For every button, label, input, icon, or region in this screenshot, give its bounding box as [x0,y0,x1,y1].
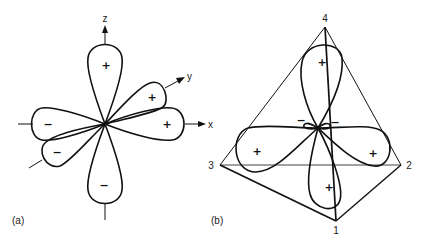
x-axis-label: x [208,119,213,130]
y-axis-label: y [187,71,192,82]
sign-b-left: + [252,145,261,158]
lobe-positive-y [105,82,166,124]
orbital-diagram: + − + + − − z y x (a) + + + + − − [0,0,431,244]
y-axis-arrowhead-icon [176,77,185,84]
z-axis-label: z [103,13,108,24]
lobe-b-right [318,127,390,166]
sign-b-small-left: − [296,114,305,127]
sign-positive-x: + [162,118,171,131]
sign-b-lower: + [324,181,333,194]
neg-y-axis-stub [29,160,42,168]
sign-positive-y: + [147,91,156,104]
sign-b-upper: + [317,56,326,69]
edge-2-1 [336,165,401,221]
panel-b: + + + + − − 4 3 2 1 (b) [208,13,412,236]
sign-negative-y: − [52,146,61,159]
sign-b-right: + [368,147,377,160]
sign-lower-z: − [99,179,108,192]
panel-a: + − + + − − z y x (a) [12,13,213,226]
sign-upper-z: + [101,59,110,72]
vertex-label-1: 1 [333,225,339,236]
sign-negative-x: − [43,118,52,131]
panel-b-caption: (b) [211,215,223,226]
nucleus-dot [103,122,107,126]
z-axis-arrowhead-icon [102,25,108,33]
x-axis-arrowhead-icon [198,121,206,127]
sign-b-small-right: − [330,116,339,129]
vertex-label-2: 2 [406,160,412,171]
edge-3-1 [220,165,336,221]
vertex-label-3: 3 [208,160,214,171]
panel-a-caption: (a) [12,215,24,226]
y-axis-line [165,81,178,88]
vertex-label-4: 4 [322,13,328,24]
lobe-b-lower [309,128,341,209]
